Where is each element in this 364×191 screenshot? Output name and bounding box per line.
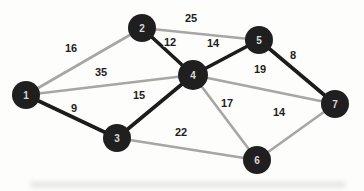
- node-label-5: 5: [256, 35, 262, 46]
- paper-smudge-artifact: [30, 181, 346, 188]
- edge-1-4: [26, 75, 193, 95]
- edge-2-5: [142, 28, 259, 40]
- edge-weight-1-2: 16: [65, 42, 77, 54]
- edge-weight-6-7: 14: [273, 106, 286, 118]
- edge-weight-2-5: 25: [185, 12, 197, 24]
- edge-5-7: [259, 40, 335, 104]
- edge-weight-4-6: 17: [221, 97, 233, 109]
- edge-weight-4-5: 14: [207, 37, 220, 49]
- nodes-layer: 1234567: [12, 14, 349, 174]
- graph-canvas: 1234567 1635251917221491215148: [0, 0, 364, 191]
- node-label-2: 2: [139, 23, 145, 34]
- node-label-6: 6: [254, 155, 260, 166]
- graph-svg: 1234567 1635251917221491215148: [0, 0, 364, 191]
- edge-weight-1-4: 35: [95, 66, 107, 78]
- edge-4-6: [193, 75, 257, 160]
- edge-weight-3-6: 22: [175, 126, 187, 138]
- edge-weight-3-4: 15: [133, 89, 145, 101]
- node-label-3: 3: [114, 133, 120, 144]
- node-label-7: 7: [332, 99, 338, 110]
- edge-3-6: [117, 138, 257, 160]
- edge-4-7: [193, 75, 335, 104]
- edge-weight-2-4: 12: [164, 36, 176, 48]
- edge-weight-4-7: 19: [254, 63, 266, 75]
- node-label-1: 1: [23, 90, 29, 101]
- edge-weight-5-7: 8: [290, 49, 296, 61]
- edge-1-2: [26, 28, 142, 95]
- edge-6-7: [257, 104, 335, 160]
- node-label-4: 4: [190, 70, 196, 81]
- edge-weight-1-3: 9: [71, 102, 77, 114]
